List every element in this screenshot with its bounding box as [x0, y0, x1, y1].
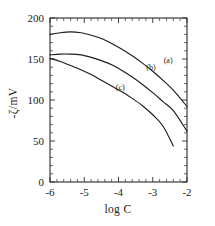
y-tick-label: 200: [28, 12, 45, 24]
x-tick-label: -2: [182, 186, 191, 198]
x-tick-label: -3: [148, 186, 158, 198]
zeta-potential-vs-log-concentration-chart: -6-5-4-3-2 050100150200 (a)(b)(c) log C …: [0, 0, 215, 226]
y-tick-label: 150: [28, 53, 45, 65]
y-axis-title: -ζ/mV: [7, 87, 20, 118]
y-tick-label: 0: [39, 176, 45, 188]
y-tick-label: 100: [28, 94, 45, 106]
y-tick-label: 50: [33, 135, 45, 147]
curve-label-c: (c): [116, 83, 125, 92]
x-tick-label: -6: [45, 186, 55, 198]
x-tick-label: -4: [114, 186, 124, 198]
curve-label-a: (a): [164, 56, 173, 65]
x-axis-title: log C: [104, 203, 131, 216]
x-tick-label: -5: [80, 186, 90, 198]
curve-label-b: (b): [146, 63, 156, 72]
chart-figure: -6-5-4-3-2 050100150200 (a)(b)(c) log C …: [0, 0, 215, 226]
